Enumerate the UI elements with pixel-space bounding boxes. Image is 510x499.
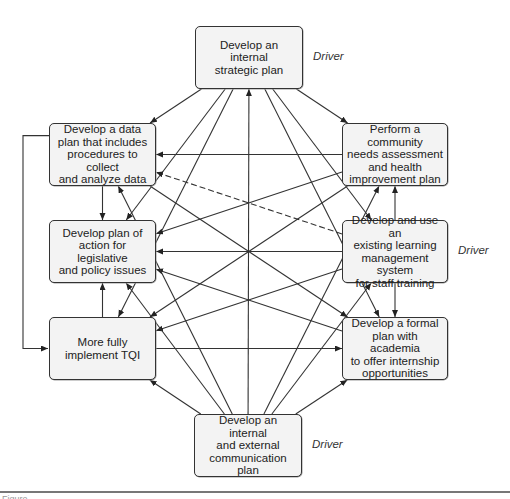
node-tqi: More fully implement TQI [49,317,156,380]
driver-label: Driver [458,244,489,256]
edge-strategic-community [296,89,347,123]
figure-caption: Figure [2,494,28,499]
driver-label: Driver [313,50,344,62]
node-communication: Develop an internal and external communi… [194,414,302,477]
node-lms: Develop and use an existing learning man… [342,220,448,283]
edge-communication-tqi [150,380,201,414]
node-label: Develop and use an existing learning man… [347,214,443,289]
node-community: Perform a community needs assessment and… [342,123,448,186]
driver-label: Driver [312,438,343,450]
node-data: Develop a data plan that includes proced… [49,123,156,186]
node-label: Develop an internal and external communi… [199,414,297,477]
node-legislative: Develop plan of action for legislative a… [49,220,156,283]
node-strategic: Develop an internal strategic plan [195,26,303,89]
node-academia: Develop a formal plan with academia to o… [342,317,448,380]
edge-data-tqi [23,136,49,349]
node-label: More fully implement TQI [65,336,140,361]
node-label: Develop a formal plan with academia to o… [347,317,443,380]
node-label: Develop an internal strategic plan [200,39,298,77]
node-label: Perform a community needs assessment and… [347,123,443,186]
node-label: Develop a data plan that includes proced… [54,123,151,186]
bottom-rule [0,491,510,493]
edge-communication-academia [296,380,348,414]
node-label: Develop plan of action for legislative a… [54,227,151,277]
edge-strategic-data [150,89,201,123]
